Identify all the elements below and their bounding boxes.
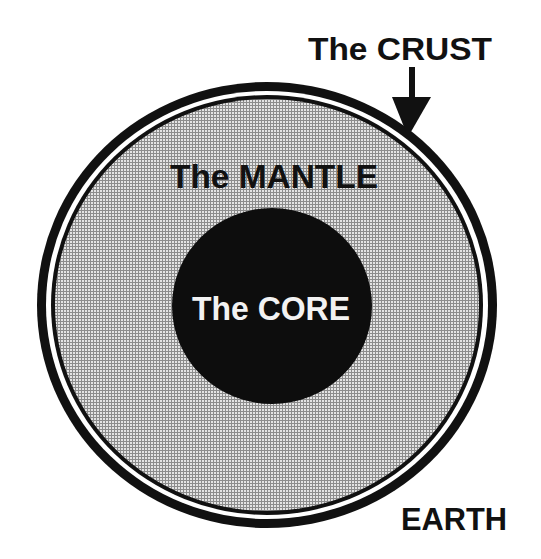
core-label: The CORE xyxy=(192,290,350,327)
mantle-label: The MANTLE xyxy=(170,157,378,195)
earth-label: EARTH xyxy=(401,501,507,537)
earth-layers-diagram: The CRUST The MANTLE The CORE EARTH xyxy=(0,0,541,559)
crust-label: The CRUST xyxy=(308,31,492,67)
